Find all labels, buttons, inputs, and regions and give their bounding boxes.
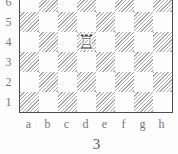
diagram-number: 3 <box>19 136 174 153</box>
square-e5 <box>96 12 115 32</box>
square-f6 <box>115 0 134 12</box>
rank-label-3: 3 <box>0 52 17 72</box>
square-g1 <box>134 92 153 112</box>
square-a1 <box>20 92 39 112</box>
rank-label-6: 6 <box>0 0 17 12</box>
file-label-d: d <box>76 114 95 132</box>
square-h2 <box>153 72 172 92</box>
chess-board: ♖ <box>19 0 173 113</box>
square-g6 <box>134 0 153 12</box>
square-g2 <box>134 72 153 92</box>
square-d5 <box>77 12 96 32</box>
square-f5 <box>115 12 134 32</box>
square-e6 <box>96 0 115 12</box>
rank-label-1: 1 <box>0 92 17 112</box>
square-c1 <box>58 92 77 112</box>
file-label-e: e <box>95 114 114 132</box>
rank-labels: 654321 <box>0 0 17 112</box>
square-b5 <box>39 12 58 32</box>
square-e3 <box>96 52 115 72</box>
square-d1 <box>77 92 96 112</box>
square-d3 <box>77 52 96 72</box>
square-b6 <box>39 0 58 12</box>
square-b1 <box>39 92 58 112</box>
white-rook-piece: ♖ <box>77 32 96 52</box>
square-b2 <box>39 72 58 92</box>
rank-label-4: 4 <box>0 32 17 52</box>
square-e2 <box>96 72 115 92</box>
square-h5 <box>153 12 172 32</box>
square-e1 <box>96 92 115 112</box>
square-b4 <box>39 32 58 52</box>
square-a5 <box>20 12 39 32</box>
square-c6 <box>58 0 77 12</box>
square-h1 <box>153 92 172 112</box>
file-label-b: b <box>38 114 57 132</box>
square-a4 <box>20 32 39 52</box>
square-a6 <box>20 0 39 12</box>
square-f3 <box>115 52 134 72</box>
square-c3 <box>58 52 77 72</box>
file-label-f: f <box>114 114 133 132</box>
chess-diagram: 654321 ♖ abcdefgh 3 <box>0 0 178 154</box>
square-d4: ♖ <box>77 32 96 52</box>
rank-label-5: 5 <box>0 12 17 32</box>
square-f4 <box>115 32 134 52</box>
file-label-a: a <box>19 114 38 132</box>
square-h3 <box>153 52 172 72</box>
square-a2 <box>20 72 39 92</box>
file-label-c: c <box>57 114 76 132</box>
square-c4 <box>58 32 77 52</box>
file-label-g: g <box>133 114 152 132</box>
square-e4 <box>96 32 115 52</box>
square-c2 <box>58 72 77 92</box>
square-d2 <box>77 72 96 92</box>
square-a3 <box>20 52 39 72</box>
rank-label-2: 2 <box>0 72 17 92</box>
square-g3 <box>134 52 153 72</box>
square-g4 <box>134 32 153 52</box>
file-labels: abcdefgh <box>19 114 171 132</box>
file-label-h: h <box>152 114 171 132</box>
square-d6 <box>77 0 96 12</box>
square-c5 <box>58 12 77 32</box>
square-f2 <box>115 72 134 92</box>
square-f1 <box>115 92 134 112</box>
square-h6 <box>153 0 172 12</box>
square-h4 <box>153 32 172 52</box>
square-g5 <box>134 12 153 32</box>
square-b3 <box>39 52 58 72</box>
